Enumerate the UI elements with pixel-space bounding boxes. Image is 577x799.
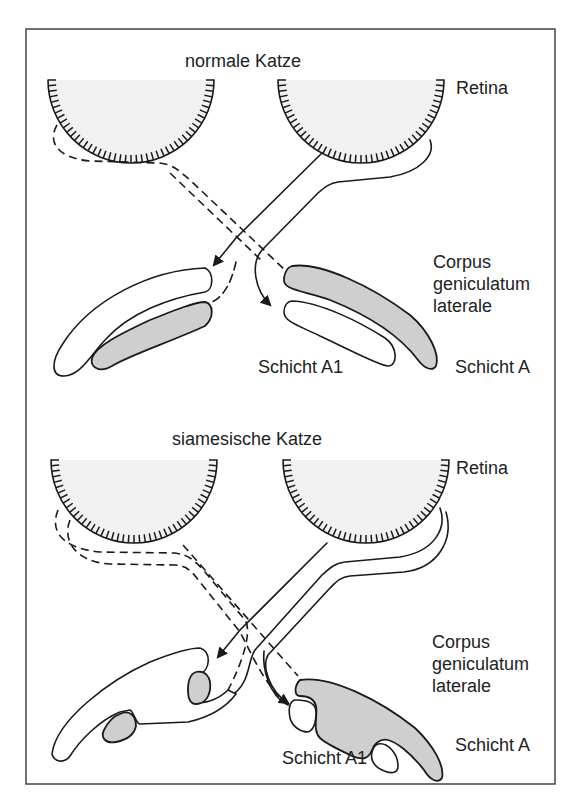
lgn-label-line-1: Corpus xyxy=(433,252,491,272)
left-lgn xyxy=(54,268,212,376)
lgn-label-line-2: geniculatum xyxy=(433,274,530,294)
right-lgn xyxy=(284,266,437,369)
right-lgn-a1-patch-lower xyxy=(371,744,398,773)
panel-title: normale Katze xyxy=(185,51,301,71)
right-retina-icon xyxy=(283,460,449,543)
lgn-label-line-1: Corpus xyxy=(432,632,490,652)
left-lgn-outer xyxy=(52,648,236,761)
layer-a-label: Schicht A xyxy=(455,357,530,377)
right-lgn-a1-patch-upper xyxy=(289,700,316,732)
layer-a-label: Schicht A xyxy=(455,735,530,755)
retina-label: Retina xyxy=(456,78,509,98)
right-retina-icon xyxy=(278,80,444,163)
left-retina-icon xyxy=(51,460,217,543)
diagram-canvas: normale Katze Retina xyxy=(0,0,577,799)
layer-a1-label: Schicht A1 xyxy=(282,748,367,768)
lgn-label-line-2: geniculatum xyxy=(432,654,529,674)
layer-a1-label: Schicht A1 xyxy=(258,357,343,377)
lgn-label-line-3: laterale xyxy=(432,676,491,696)
left-retina-icon xyxy=(48,80,214,163)
left-lgn-gray-patch-upper xyxy=(188,672,210,704)
panel-normal-cat: normale Katze Retina xyxy=(48,51,530,377)
left-lgn xyxy=(52,648,236,761)
panel-title: siamesische Katze xyxy=(172,429,322,449)
panel-siamese-cat: siamesische Katze Retina xyxy=(51,429,530,781)
retina-label: Retina xyxy=(456,458,509,478)
lgn-label-line-3: laterale xyxy=(433,296,492,316)
